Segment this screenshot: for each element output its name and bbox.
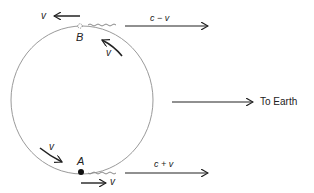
velocity-label-a-right: v	[110, 177, 115, 187]
velocity-label-a-tangent: v	[49, 142, 54, 152]
signal-label-b: c − v	[150, 14, 169, 23]
point-a-marker	[78, 169, 84, 175]
point-label-a: A	[77, 156, 84, 167]
direction-label: To Earth	[260, 97, 297, 107]
signal-label-a: c + v	[154, 160, 173, 169]
point-b-marker	[78, 24, 82, 28]
velocity-label-b-left: v	[41, 11, 46, 21]
wave-b	[88, 24, 116, 26]
velocity-label-b-tangent: v	[106, 48, 111, 58]
orbit-circle	[11, 26, 153, 174]
velocity-arrow-b-tangent	[102, 40, 122, 56]
point-label-b: B	[76, 32, 83, 43]
